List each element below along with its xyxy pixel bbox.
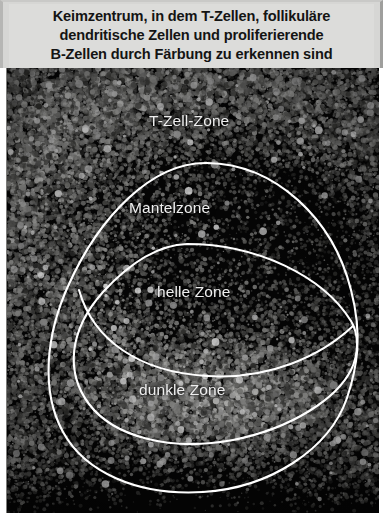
label-t-zell-zone: T-Zell-Zone (149, 112, 229, 130)
caption-line-2: dendritische Zellen und proliferierende (9, 26, 374, 45)
germinal-center-outline (74, 244, 357, 444)
label-helle-zone: helle Zone (157, 283, 230, 301)
histology-micrograph: T-Zell-Zone Mantelzone helle Zone dunkle… (6, 68, 379, 513)
caption-line-3: B-Zellen durch Färbung zu erkennen sind (9, 45, 374, 64)
label-mantelzone: Mantelzone (129, 199, 210, 217)
caption-line-1: Keimzentrum, in dem T-Zellen, follikulär… (9, 7, 374, 26)
figure-keimzentrum: Keimzentrum, in dem T-Zellen, follikulär… (0, 0, 383, 529)
light-dark-zone-divider (79, 290, 353, 376)
figure-caption-bar: Keimzentrum, in dem T-Zellen, follikulär… (0, 0, 383, 68)
label-dunkle-zone: dunkle Zone (139, 381, 225, 399)
figure-caption-inner: Keimzentrum, in dem T-Zellen, follikulär… (9, 4, 374, 68)
